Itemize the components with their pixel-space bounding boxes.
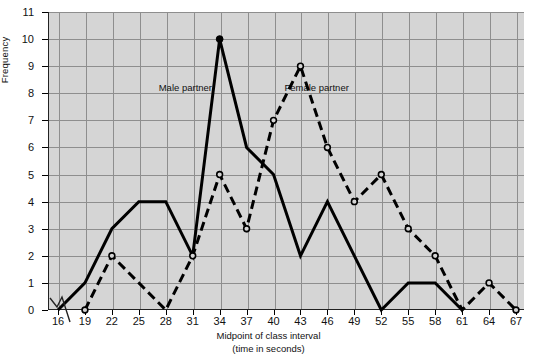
horizontal-gridline [49, 120, 524, 121]
vertical-gridline [59, 12, 60, 309]
y-tick-mark [42, 256, 48, 257]
y-tick-mark [42, 39, 48, 40]
vertical-gridline [113, 12, 114, 309]
x-tick-label: 49 [339, 315, 369, 327]
y-tick-mark [42, 202, 48, 203]
x-axis-subtitle: (time in seconds) [0, 343, 537, 355]
vertical-gridline [463, 12, 464, 309]
x-tick-mark [193, 310, 194, 315]
x-tick-label: 64 [474, 315, 504, 327]
x-tick-label: 61 [447, 315, 477, 327]
x-axis-title: Midpoint of class interval [0, 330, 537, 342]
y-tick-mark [42, 310, 48, 311]
y-tick-mark [42, 120, 48, 121]
x-tick-label: 28 [151, 315, 181, 327]
y-tick-label: 3 [8, 224, 34, 234]
female-series-label: Female partner [284, 82, 348, 93]
x-tick-mark [381, 310, 382, 315]
x-tick-label: 19 [70, 315, 100, 327]
x-tick-mark [300, 310, 301, 315]
vertical-gridline [248, 12, 249, 309]
x-tick-label: 16 [43, 315, 73, 327]
x-tick-label: 43 [285, 315, 315, 327]
chart-root: Frequency 01234567891011 161922252831343… [0, 0, 537, 360]
y-tick-mark [42, 283, 48, 284]
x-tick-mark [220, 310, 221, 315]
horizontal-gridline [49, 202, 524, 203]
y-tick-label: 0 [8, 305, 34, 315]
vertical-gridline [436, 12, 437, 309]
x-tick-mark [85, 310, 86, 315]
x-tick-label: 67 [501, 315, 531, 327]
x-tick-label: 46 [312, 315, 342, 327]
y-tick-label: 1 [8, 278, 34, 288]
y-axis-label-text: Frequency [0, 0, 10, 120]
y-tick-mark [42, 147, 48, 148]
horizontal-gridline [49, 39, 524, 40]
x-tick-mark [516, 310, 517, 315]
plot-area [48, 12, 524, 310]
vertical-gridline [221, 12, 222, 309]
x-tick-mark [247, 310, 248, 315]
y-tick-label: 8 [8, 88, 34, 98]
vertical-gridline [167, 12, 168, 309]
y-axis-label: Frequency [0, 0, 10, 120]
y-tick-label: 11 [8, 7, 34, 17]
y-tick-label: 9 [8, 61, 34, 71]
x-tick-label: 34 [205, 315, 235, 327]
x-tick-mark [327, 310, 328, 315]
horizontal-gridline [49, 175, 524, 176]
x-tick-label: 25 [124, 315, 154, 327]
y-tick-label: 10 [8, 34, 34, 44]
y-tick-label: 7 [8, 115, 34, 125]
horizontal-gridline [49, 283, 524, 284]
y-tick-mark [42, 175, 48, 176]
male-series-label: Male partner [159, 82, 212, 93]
horizontal-gridline [49, 12, 524, 13]
horizontal-gridline [49, 256, 524, 257]
vertical-gridline [275, 12, 276, 309]
x-tick-mark [462, 310, 463, 315]
vertical-gridline [86, 12, 87, 309]
x-tick-mark [274, 310, 275, 315]
x-tick-label: 22 [97, 315, 127, 327]
y-tick-mark [42, 229, 48, 230]
x-tick-label: 31 [178, 315, 208, 327]
y-tick-label: 6 [8, 142, 34, 152]
vertical-gridline [301, 12, 302, 309]
y-tick-label: 4 [8, 197, 34, 207]
x-tick-label: 37 [232, 315, 262, 327]
vertical-gridline [328, 12, 329, 309]
x-tick-mark [58, 310, 59, 315]
x-tick-mark [435, 310, 436, 315]
x-tick-mark [489, 310, 490, 315]
horizontal-gridline [49, 147, 524, 148]
y-tick-mark [42, 12, 48, 13]
x-tick-label: 58 [420, 315, 450, 327]
y-tick-label: 2 [8, 251, 34, 261]
vertical-gridline [409, 12, 410, 309]
x-tick-mark [139, 310, 140, 315]
x-tick-mark [408, 310, 409, 315]
y-tick-mark [42, 93, 48, 94]
y-tick-mark [42, 66, 48, 67]
vertical-gridline [517, 12, 518, 309]
horizontal-gridline [49, 66, 524, 67]
horizontal-gridline [49, 229, 524, 230]
y-tick-label: 5 [8, 170, 34, 180]
vertical-gridline [355, 12, 356, 309]
x-tick-mark [166, 310, 167, 315]
x-tick-label: 55 [393, 315, 423, 327]
x-tick-mark [112, 310, 113, 315]
vertical-gridline [382, 12, 383, 309]
vertical-gridline [194, 12, 195, 309]
x-tick-label: 52 [366, 315, 396, 327]
x-tick-mark [354, 310, 355, 315]
x-tick-label: 40 [259, 315, 289, 327]
vertical-gridline [140, 12, 141, 309]
vertical-gridline [490, 12, 491, 309]
horizontal-gridline [49, 93, 524, 94]
